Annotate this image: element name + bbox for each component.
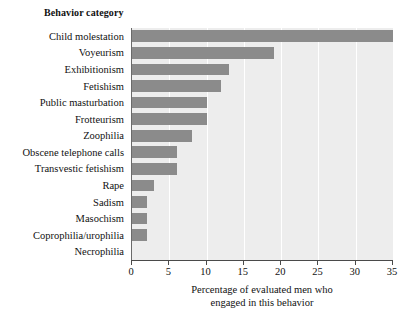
bar [132,97,207,109]
bar-row [132,127,393,144]
bar [132,163,177,175]
category-label: Public masturbation [40,97,124,108]
bar [132,113,207,125]
bar [132,47,274,59]
category-axis-labels: Child molestationVoyeurismExhibitionismF… [0,28,128,260]
bar [132,146,177,158]
category-label: Exhibitionism [64,64,124,75]
bar-row [132,78,393,95]
bar-row [132,28,393,45]
bar-row [132,144,393,161]
category-label: Masochism [76,213,124,224]
x-axis-tick [392,261,393,265]
bar [132,80,221,92]
x-axis-title-line1: Percentage of evaluated men who [131,283,393,296]
bar-row [132,194,393,211]
x-axis-tick-label: 35 [387,266,398,278]
plot-area [131,28,393,260]
x-axis-title: Percentage of evaluated men who engaged … [131,283,393,309]
bar-row [132,111,393,128]
category-label: Coprophilia/urophilia [33,230,124,241]
bar [132,229,147,241]
x-axis-tick-label: 5 [166,266,171,278]
bar-chart-figure: Behavior category Child molestationVoyeu… [0,0,417,325]
bar [132,180,154,192]
x-axis-tick [206,261,207,265]
category-label: Necrophilia [74,246,124,257]
category-label: Child molestation [49,31,124,42]
x-axis-tick-label: 15 [238,266,249,278]
bar-series [132,28,393,260]
bar-row [132,227,393,244]
bar-row [132,161,393,178]
x-axis-tick [131,261,132,265]
category-axis-title: Behavior category [44,7,124,18]
x-axis-tick-label: 20 [275,266,286,278]
gridline [393,28,394,260]
bar [132,213,147,225]
bar [132,30,393,42]
bar-row [132,177,393,194]
category-label: Transvestic fetishism [35,163,124,174]
bar-row [132,45,393,62]
category-label: Zoophilia [83,130,124,141]
x-axis-tick-label: 10 [200,266,211,278]
x-axis-tick [168,261,169,265]
bar-row [132,243,393,260]
x-axis-tick-label: 0 [128,266,133,278]
x-axis-tick [355,261,356,265]
bar [132,64,229,76]
bar [132,196,147,208]
x-axis-line [131,260,393,261]
category-label: Fetishism [83,81,124,92]
bar-row [132,61,393,78]
category-label: Sadism [93,197,124,208]
category-label: Voyeurism [79,47,124,58]
bar-row [132,94,393,111]
bar [132,130,192,142]
x-axis-tick-label: 25 [312,266,323,278]
category-label: Obscene telephone calls [23,147,124,158]
x-axis-tick [280,261,281,265]
x-axis-title-line2: engaged in this behavior [131,296,393,309]
x-axis-tick-label: 30 [349,266,360,278]
category-label: Rape [102,180,124,191]
category-label: Frotteurism [75,114,124,125]
x-axis-tick [243,261,244,265]
x-axis-tick [317,261,318,265]
bar-row [132,210,393,227]
